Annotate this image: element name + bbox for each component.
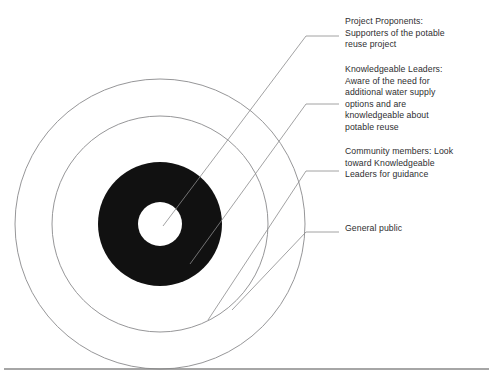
diagram-canvas: Project Proponents: Supporters of the po… [0, 0, 493, 381]
center-circle [138, 202, 182, 246]
label-project-proponents: Project Proponents: Supporters of the po… [345, 16, 490, 51]
label-knowledgeable-leaders: Knowledgeable Leaders: Aware of the need… [345, 64, 490, 134]
label-community-members: Community members: Look toward Knowledge… [345, 146, 490, 181]
label-general-public: General public [345, 223, 490, 235]
concentric-circles-diagram [0, 0, 493, 381]
